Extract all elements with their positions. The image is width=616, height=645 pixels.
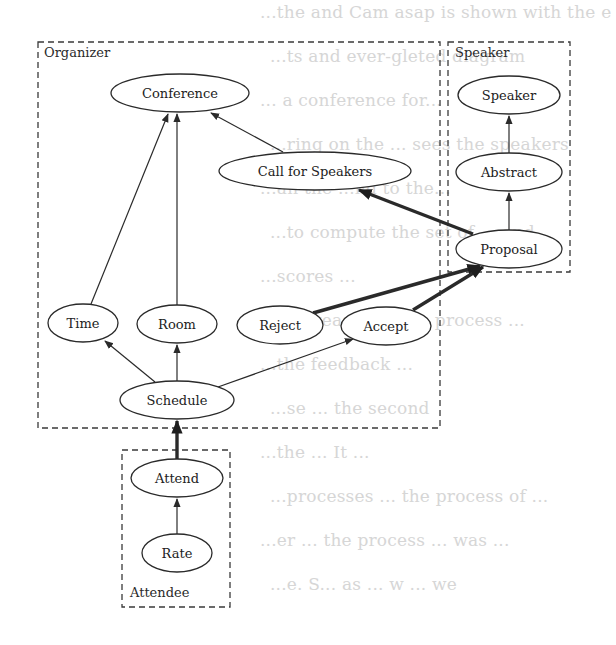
node-label: Reject [259, 318, 301, 333]
cluster-label: Attendee [129, 585, 190, 600]
cluster-label: Organizer [44, 45, 111, 60]
node-abstract: Abstract [456, 153, 562, 191]
node-label: Proposal [480, 242, 538, 257]
node-label: Room [158, 317, 196, 332]
node-label: Rate [162, 546, 193, 561]
node-label: Time [67, 316, 100, 331]
node-speaker: Speaker [458, 76, 560, 114]
node-attend: Attend [131, 459, 223, 497]
node-proposal: Proposal [456, 230, 562, 268]
node-label: Schedule [147, 393, 208, 408]
cluster-label: Speaker [455, 45, 510, 60]
node-label: Accept [362, 319, 409, 334]
node-call-for-speakers: Call for Speakers [219, 152, 411, 190]
node-label: Conference [142, 86, 218, 101]
node-rate: Rate [142, 534, 212, 572]
node-time: Time [48, 304, 118, 342]
node-room: Room [137, 305, 217, 343]
node-label: Call for Speakers [258, 164, 372, 179]
node-reject: Reject [237, 306, 323, 344]
node-accept: Accept [341, 307, 431, 345]
node-label: Speaker [482, 88, 537, 103]
node-schedule: Schedule [120, 381, 234, 419]
node-label: Attend [154, 471, 199, 486]
node-conference: Conference [111, 74, 249, 112]
node-label: Abstract [480, 165, 538, 180]
